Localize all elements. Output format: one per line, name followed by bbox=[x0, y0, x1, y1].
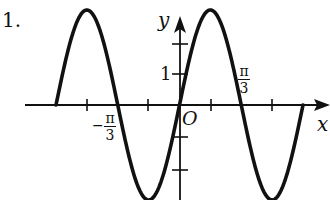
fraction-denominator: 3 bbox=[106, 128, 115, 142]
fraction-numerator: π bbox=[105, 111, 114, 125]
fraction-numerator: π bbox=[239, 64, 248, 78]
x-tick-label-neg-pi-over-3: π 3 bbox=[104, 111, 116, 142]
y-tick-label-1: 1 bbox=[160, 65, 171, 83]
x-tick-label-pi-over-3: π 3 bbox=[238, 64, 250, 95]
x-axis-label: x bbox=[317, 114, 328, 134]
negative-sign: − bbox=[92, 117, 104, 133]
fraction-denominator: 3 bbox=[240, 81, 249, 95]
problem-label: 1. bbox=[2, 10, 21, 30]
origin-label: O bbox=[182, 109, 198, 128]
y-axis-label: y bbox=[158, 10, 169, 30]
